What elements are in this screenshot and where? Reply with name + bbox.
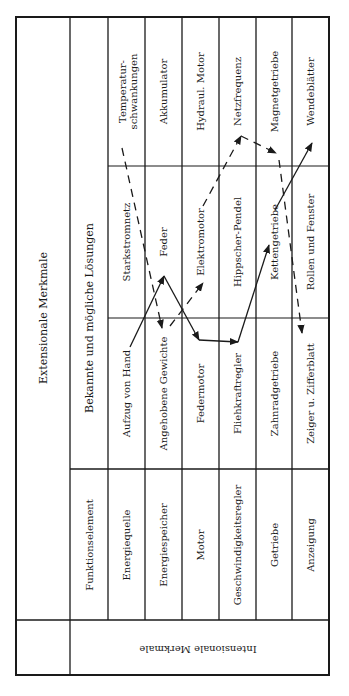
function-element-anzeigung: Anzeigung bbox=[305, 518, 316, 573]
dashed-path-arrow-3 bbox=[203, 136, 241, 206]
solution-netzfrequenz: Netzfrequenz bbox=[232, 57, 243, 126]
solid-path-arrow-1 bbox=[130, 276, 164, 347]
solution-akkumulator: Akkumulator bbox=[158, 58, 169, 125]
intensional-header: Intensionale Merkmale bbox=[139, 644, 256, 655]
function-element-energiespeicher: Energiespeicher bbox=[158, 503, 169, 587]
solution-wendeblätter: Wendeblätter bbox=[305, 57, 316, 126]
solution-aufzug-von-hand: Aufzug von Hand bbox=[121, 349, 132, 438]
solution-federmotor: Federmotor bbox=[195, 363, 206, 423]
solution-temperatur-schwankungen: Temperatur-schwankungen bbox=[117, 53, 139, 129]
solution-rollen-und-fenster: Rollen und Fenster bbox=[305, 194, 316, 291]
solution-zeiger-u-zifferblatt: Zeiger u. Zifferblatt bbox=[305, 343, 316, 444]
solution-angehobene-gewichte: Angehobene Gewichte bbox=[158, 336, 169, 451]
solution-fliehkraftregler: Fliehkraftregler bbox=[232, 353, 243, 434]
outer-border bbox=[16, 17, 329, 675]
dashed-path-arrow-2 bbox=[170, 283, 203, 326]
solutions-header: Bekannte und mögliche Lösungen bbox=[83, 223, 96, 413]
solution-starkstromnetz: Starkstromnetz bbox=[121, 203, 132, 282]
solution-zahnradgetriebe: Zahnradgetriebe bbox=[269, 351, 280, 437]
function-element-motor: Motor bbox=[195, 529, 206, 560]
solution-hydraul-motor: Hydraul. Motor bbox=[195, 52, 206, 131]
solution-hippscher-pendel: Hippscher-Pendel bbox=[232, 197, 243, 287]
solution-magnetgetriebe: Magnetgetriebe bbox=[269, 51, 280, 133]
function-element-geschwindigkeitsregler: Geschwindigkeitsregler bbox=[232, 484, 243, 605]
morphological-box-svg: Extensionale Merkmale Bekannte und mögli… bbox=[0, 0, 349, 696]
extensional-header: Extensionale Merkmale bbox=[37, 252, 50, 384]
solution-elektromotor: Elektromotor bbox=[195, 208, 206, 276]
dashed-path-arrow-5 bbox=[279, 160, 302, 333]
solution-kettengetriebe: Kettengetriebe bbox=[269, 204, 280, 280]
solution-feder: Feder bbox=[158, 227, 169, 257]
dashed-path-arrow-4 bbox=[241, 136, 276, 153]
function-header: Funktionselement bbox=[84, 499, 95, 591]
function-element-getriebe: Getriebe bbox=[269, 523, 280, 567]
morphological-box: Extensionale Merkmale Bekannte und mögli… bbox=[0, 0, 349, 696]
function-element-energiequelle: Energiequelle bbox=[121, 509, 132, 580]
